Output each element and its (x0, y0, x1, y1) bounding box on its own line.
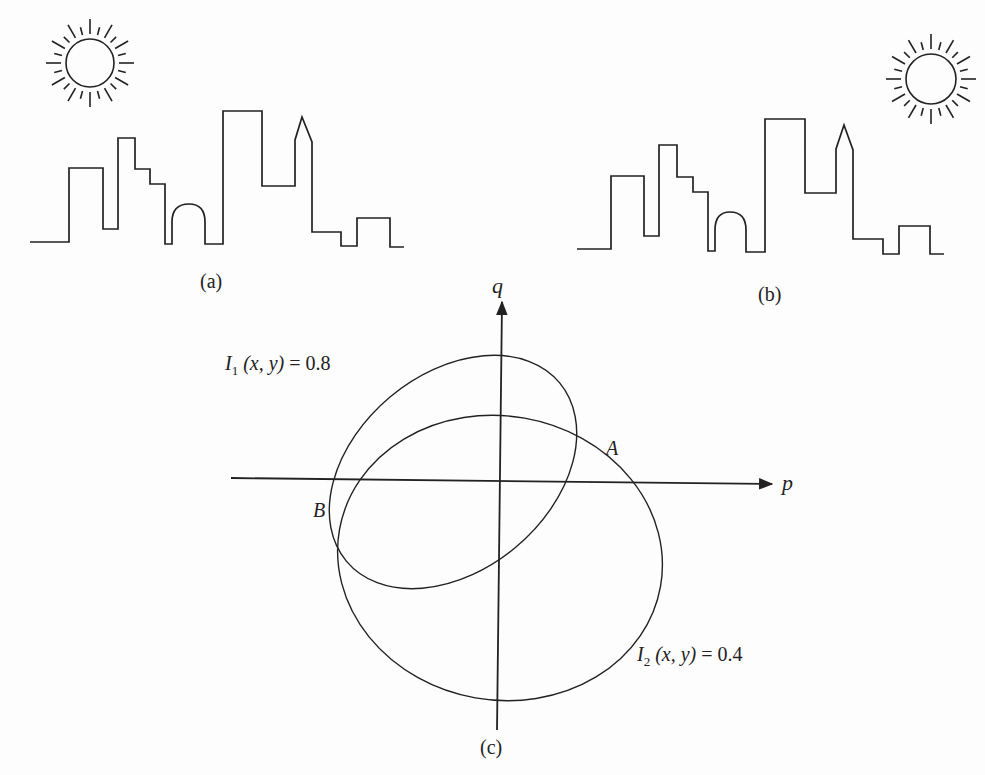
skyline-a-arch (172, 111, 404, 247)
caption-a: (a) (200, 270, 222, 293)
caption-b: (b) (758, 283, 781, 306)
q-axis (497, 302, 502, 730)
skyline-b (577, 145, 715, 251)
skyline-b-arch (715, 119, 944, 254)
point-b-label: B (313, 499, 325, 522)
q-axis-label: q (492, 273, 503, 299)
contour-i2-label: I2 (x, y) = 0.4 (637, 643, 743, 670)
contour-i1 (284, 308, 623, 637)
skyline-a (30, 138, 172, 244)
p-axis (231, 478, 772, 484)
point-a-label: A (606, 437, 618, 460)
caption-c: (c) (480, 736, 502, 759)
sun-icon-a (46, 19, 134, 107)
contour-i1-label: I1 (x, y) = 0.8 (225, 352, 331, 379)
p-axis-label: p (782, 470, 793, 496)
sun-icon-b (886, 34, 976, 124)
figure-canvas (0, 0, 985, 775)
